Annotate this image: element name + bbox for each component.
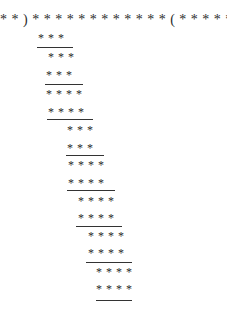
subtraction-rule xyxy=(47,119,93,120)
subtraction-rule xyxy=(37,47,73,48)
cut-off-text-line: · · · —————— · · xyxy=(0,0,135,6)
division-step-row: * * * xyxy=(38,32,65,44)
subtraction-rule xyxy=(66,155,104,156)
division-step-row: * * * * xyxy=(96,283,133,295)
dividend-line: * * ) * * * * * * * * * * * * ( * * * * … xyxy=(0,13,227,27)
division-step-row: * * * xyxy=(46,69,73,81)
division-step-row: * * * xyxy=(67,124,94,136)
division-step-row: * * * xyxy=(67,142,94,154)
subtraction-rule xyxy=(76,226,122,227)
division-step-row: * * * * xyxy=(48,106,85,118)
subtraction-rule xyxy=(67,190,115,191)
division-step-row: * * * * xyxy=(68,177,105,189)
division-step-row: * * * * xyxy=(88,247,125,259)
division-step-row: * * * * xyxy=(46,88,83,100)
division-step-row: * * * * xyxy=(96,266,133,278)
subtraction-rule xyxy=(96,300,132,301)
division-step-row: * * * * xyxy=(88,230,125,242)
division-step-row: * * * xyxy=(48,51,75,63)
subtraction-rule xyxy=(86,262,132,263)
division-step-row: * * * * xyxy=(78,212,115,224)
division-step-row: * * * * xyxy=(78,195,115,207)
division-step-row: * * * * xyxy=(68,159,105,171)
subtraction-rule xyxy=(45,84,83,85)
